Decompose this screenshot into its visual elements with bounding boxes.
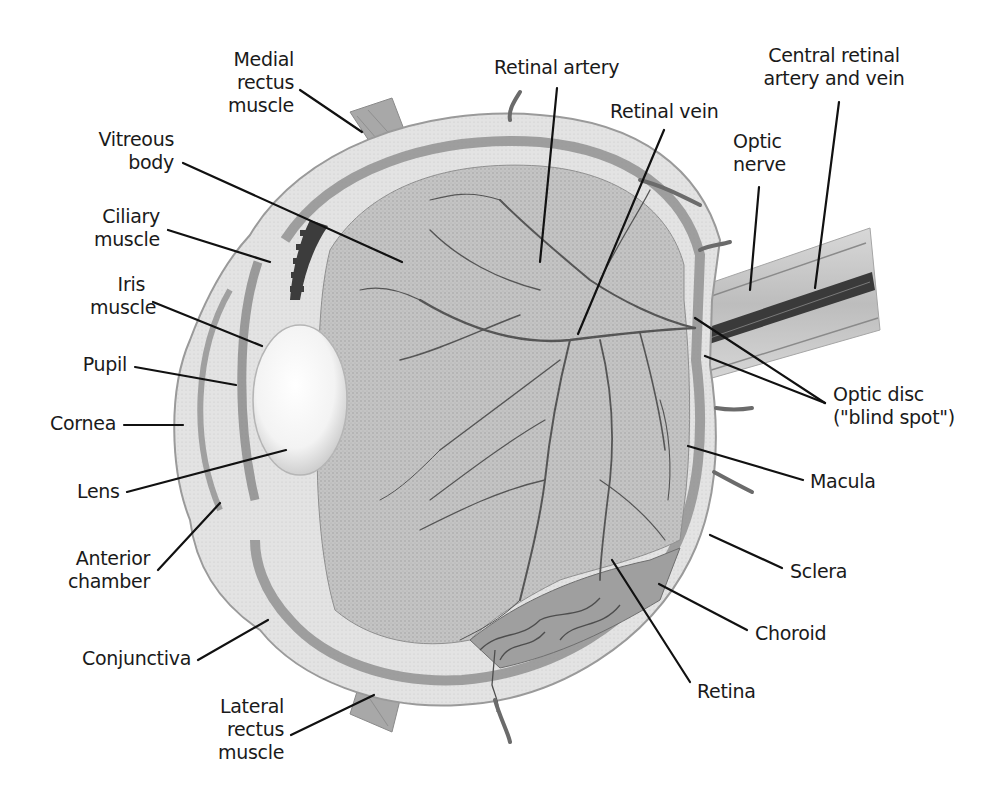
label-medial-rectus-muscle: Medial rectus muscle <box>222 48 294 117</box>
label-lateral-rectus-muscle: Lateral rectus muscle <box>218 695 284 764</box>
label-conjunctiva: Conjunctiva <box>75 647 191 670</box>
leader-line-conjunctiva <box>198 620 268 660</box>
leader-line-sclera <box>710 535 782 568</box>
label-lens: Lens <box>77 480 119 503</box>
label-vitreous-body: Vitreous body <box>94 128 174 174</box>
label-retina: Retina <box>697 680 759 703</box>
label-optic-nerve: Optic nerve <box>733 130 789 176</box>
label-ciliary-muscle: Ciliary muscle <box>90 205 160 251</box>
label-central-retinal-artery-and-vein: Central retinal artery and vein <box>763 44 905 90</box>
leader-line-choroid <box>659 584 747 630</box>
label-optic-disc: Optic disc ("blind spot") <box>833 383 959 429</box>
label-anterior-chamber: Anterior chamber <box>62 547 150 593</box>
lens-shape <box>253 325 347 475</box>
label-cornea: Cornea <box>44 412 116 435</box>
label-macula: Macula <box>810 470 885 493</box>
label-choroid: Choroid <box>755 622 835 645</box>
label-retinal-artery: Retinal artery <box>494 56 622 79</box>
eye-anatomy-diagram: Medial rectus muscleVitreous bodyCiliary… <box>0 0 1001 795</box>
label-retinal-vein: Retinal vein <box>610 100 720 123</box>
label-iris-muscle: Iris muscle <box>90 273 145 319</box>
label-pupil: Pupil <box>80 353 127 376</box>
label-sclera: Sclera <box>790 560 855 583</box>
